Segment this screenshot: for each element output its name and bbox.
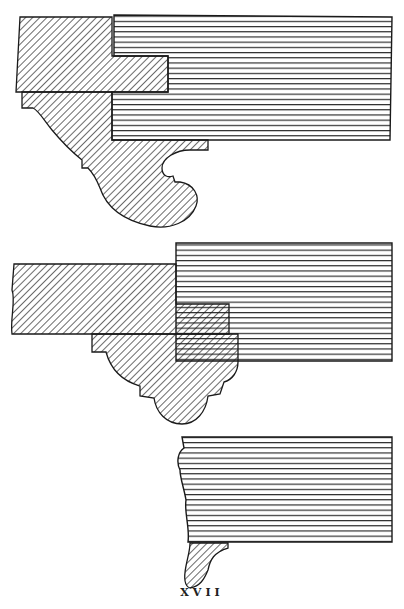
engraving-plate [0,0,404,609]
grained-plank [176,243,392,361]
figure-2 [12,243,392,424]
small-ogee-moulding [185,543,228,588]
figure-1 [16,15,392,227]
grained-plank [178,437,392,542]
plate-caption: XVII [0,586,404,599]
figure-3 [178,437,392,588]
